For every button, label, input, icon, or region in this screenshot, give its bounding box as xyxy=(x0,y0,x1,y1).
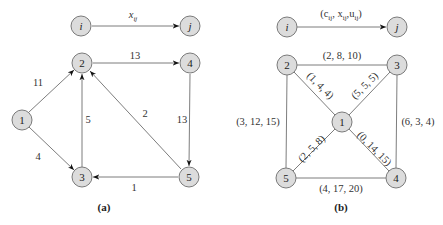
node-a-1: 1 xyxy=(12,110,32,130)
node-b-3: 3 xyxy=(387,55,407,75)
svg-text:4: 4 xyxy=(393,172,399,184)
diagram-a: xij i j 11 4 5 13 2 1 xyxy=(12,9,200,214)
figure-canvas: xij i j 11 4 5 13 2 1 xyxy=(0,0,443,225)
edge-5-2 xyxy=(90,71,181,169)
node-b-4: 4 xyxy=(386,168,406,188)
svg-text:2: 2 xyxy=(284,59,290,71)
edge-label-b-2-3: (2, 8, 10) xyxy=(323,50,362,62)
svg-text:3: 3 xyxy=(79,171,85,183)
edge-b-2-5 xyxy=(286,75,287,168)
node-a-5: 5 xyxy=(179,167,199,187)
edge-label-b-1-4: (0, 14, 15) xyxy=(354,129,394,169)
legend-b: (cij, xij,uij) i j xyxy=(277,8,407,37)
legend-node-j-b: j xyxy=(387,17,407,37)
node-b-5: 5 xyxy=(276,168,296,188)
node-b-2: 2 xyxy=(277,55,297,75)
network-flow-figure: xij i j 11 4 5 13 2 1 xyxy=(0,0,443,225)
edge-label-b-3-4: (6, 3, 4) xyxy=(401,116,435,128)
edge-label-b-1-5: (2, 5, 8) xyxy=(296,133,328,165)
svg-text:5: 5 xyxy=(186,171,192,183)
svg-text:2: 2 xyxy=(79,57,85,69)
legend-node-i-b: i xyxy=(277,17,297,37)
caption-b: (b) xyxy=(334,201,348,214)
edge-label-3-2: 5 xyxy=(85,114,90,125)
edge-label-2-4: 13 xyxy=(130,50,141,61)
diagram-b: (cij, xij,uij) i j (2, 8, 10) (1, 4, 4 xyxy=(236,8,435,214)
legend-label-a: xij xyxy=(128,9,138,23)
svg-text:1: 1 xyxy=(339,116,345,128)
node-a-4: 4 xyxy=(180,53,200,73)
node-b-1: 1 xyxy=(332,112,352,132)
edge-label-1-2: 11 xyxy=(33,77,43,88)
legend-label-b: (cij, xij,uij) xyxy=(320,8,362,22)
edge-1-3 xyxy=(29,127,74,170)
svg-text:i: i xyxy=(285,21,288,33)
legend-node-i: i xyxy=(71,16,91,36)
svg-text:i: i xyxy=(79,20,82,32)
edge-label-5-2: 2 xyxy=(142,108,147,119)
edge-label-1-3: 4 xyxy=(35,151,41,162)
caption-a: (a) xyxy=(98,201,111,214)
svg-text:4: 4 xyxy=(187,57,193,69)
edge-b-3-4 xyxy=(396,75,397,168)
node-a-3: 3 xyxy=(72,167,92,187)
legend-node-j: j xyxy=(180,16,200,36)
svg-text:1: 1 xyxy=(19,114,25,126)
edge-4-5 xyxy=(189,74,190,166)
edge-label-b-2-5: (3, 12, 15) xyxy=(236,116,280,128)
node-a-2: 2 xyxy=(72,53,92,73)
svg-text:3: 3 xyxy=(394,59,400,71)
edge-label-5-3: 1 xyxy=(131,182,136,193)
edge-label-b-5-4: (4, 17, 20) xyxy=(319,183,363,195)
svg-text:5: 5 xyxy=(283,172,289,184)
edges-a xyxy=(29,63,190,177)
edge-label-b-2-1: (1, 4, 4) xyxy=(304,70,336,102)
edge-label-4-5: 13 xyxy=(177,114,188,125)
edge-labels-a: 11 4 5 13 2 13 1 xyxy=(33,50,187,193)
legend-a: xij i j xyxy=(71,9,200,36)
